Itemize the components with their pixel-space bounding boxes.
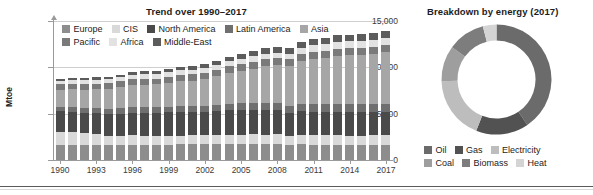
legend-swatch-icon <box>109 38 117 46</box>
x-tick-mark <box>96 160 97 164</box>
legend-row: EuropeCISNorth AmericaLatin AmericaAsia <box>62 24 362 34</box>
legend-item-oil[interactable]: Oil <box>424 145 447 155</box>
bar-segment-cis <box>261 135 270 145</box>
legend-item-asia[interactable]: Asia <box>300 24 329 34</box>
legend-item-coal[interactable]: Coal <box>424 158 454 168</box>
legend-label: CIS <box>123 24 138 34</box>
legend-label: Middle-East <box>164 37 212 47</box>
bar-segment-asia <box>188 81 197 106</box>
bar-segment-asia <box>92 89 101 108</box>
legend-item-biomass[interactable]: Biomass <box>462 158 508 168</box>
legend-item-cis[interactable]: CIS <box>112 24 139 34</box>
bar-1996 <box>128 72 137 160</box>
bar-segment-pacific <box>309 52 318 59</box>
legend-item-latin-america[interactable]: Latin America <box>225 24 291 34</box>
bar-segment-latin-america <box>261 103 270 110</box>
bar-segment-latin-america <box>345 104 354 112</box>
legend-item-europe[interactable]: Europe <box>62 24 103 34</box>
legend-item-middle-east[interactable]: Middle-East <box>153 37 212 47</box>
bar-segment-europe <box>164 145 173 160</box>
bar-segment-north-america <box>273 110 282 134</box>
legend-swatch-icon <box>424 146 432 154</box>
bar-segment-north-america <box>249 110 258 134</box>
bar-segment-cis <box>297 135 306 145</box>
x-tick-label: 2008 <box>260 165 294 175</box>
bar-segment-north-america <box>152 113 161 136</box>
legend-label: Coal <box>436 158 455 168</box>
bar-segment-cis <box>225 135 234 144</box>
bar-segment-europe <box>273 144 282 160</box>
bar-segment-middle-east <box>381 31 390 38</box>
bar-segment-cis <box>345 136 354 146</box>
bar-segment-north-america <box>333 112 342 135</box>
legend-swatch-icon <box>300 25 308 33</box>
bar-segment-asia <box>116 87 125 108</box>
bar-segment-europe <box>140 145 149 160</box>
bar-segment-pacific <box>249 62 258 69</box>
x-tick-label: 1996 <box>115 165 149 175</box>
bar-segment-latin-america <box>309 104 318 112</box>
legend-item-heat[interactable]: Heat <box>516 158 547 168</box>
x-tick-label: 1993 <box>79 165 113 175</box>
bar-segment-north-america <box>357 112 366 135</box>
bar-2009 <box>285 48 294 160</box>
bar-segment-europe <box>80 145 89 160</box>
legend-item-north-america[interactable]: North America <box>147 24 216 34</box>
bar-segment-europe <box>261 144 270 160</box>
x-tick-mark <box>241 160 242 164</box>
bar-2016 <box>369 33 378 160</box>
legend-swatch-icon <box>147 25 155 33</box>
bar-segment-cis <box>104 136 113 146</box>
energy-breakdown-panel: Breakdown by energy (2017) OilGasElectri… <box>398 0 593 183</box>
legend-item-electricity[interactable]: Electricity <box>491 145 541 155</box>
legend-item-gas[interactable]: Gas <box>455 145 483 155</box>
bar-segment-cis <box>200 135 209 144</box>
bar-segment-europe <box>200 144 209 160</box>
bar-segment-pacific <box>369 47 378 54</box>
bar-2007 <box>261 48 270 160</box>
bar-segment-asia <box>128 85 137 107</box>
footer-divider <box>0 186 593 187</box>
bar-segment-asia <box>225 73 234 104</box>
bar-segment-north-america <box>188 112 197 136</box>
bar-segment-asia <box>321 58 330 105</box>
legend-label: Heat <box>528 158 547 168</box>
legend-row: CoalBiomassHeat <box>424 158 589 168</box>
y-axis-label: Mtoe <box>4 77 14 117</box>
bar-2004 <box>225 57 234 160</box>
bar-segment-north-america <box>345 112 354 135</box>
bar-segment-cis <box>369 135 378 145</box>
bar-segment-pacific <box>321 51 330 58</box>
legend-item-pacific[interactable]: Pacific <box>62 37 100 47</box>
bar-segment-latin-america <box>321 104 330 112</box>
bar-segment-europe <box>116 145 125 160</box>
bar-chart-legend: EuropeCISNorth AmericaLatin AmericaAsiaP… <box>62 24 362 50</box>
legend-row: OilGasElectricity <box>424 145 589 155</box>
bar-segment-latin-america <box>357 104 366 112</box>
legend-swatch-icon <box>462 159 470 167</box>
bar-segment-asia <box>345 55 354 104</box>
bar-1993 <box>92 77 101 160</box>
bar-segment-north-america <box>128 113 137 136</box>
bar-segment-cis <box>56 132 65 145</box>
bar-segment-europe <box>176 144 185 160</box>
bar-segment-asia <box>297 61 306 104</box>
donut-slice-gas <box>476 112 527 135</box>
bar-segment-north-america <box>80 113 89 134</box>
bar-segment-north-america <box>164 112 173 135</box>
bar-segment-asia <box>309 59 318 104</box>
legend-item-africa[interactable]: Africa <box>109 37 144 47</box>
legend-label: Gas <box>466 145 483 155</box>
bar-segment-north-america <box>212 111 221 135</box>
bar-segment-asia <box>237 71 246 104</box>
bar-segment-cis <box>68 132 77 145</box>
donut-chart <box>439 22 554 137</box>
bar-segment-europe <box>333 145 342 160</box>
legend-label: Latin America <box>236 24 291 34</box>
bar-segment-north-america <box>297 111 306 135</box>
bar-segment-cis <box>188 135 197 144</box>
bar-segment-asia <box>152 84 161 107</box>
bar-1999 <box>164 69 173 160</box>
x-tick-mark <box>386 160 387 164</box>
bar-segment-latin-america <box>333 104 342 112</box>
